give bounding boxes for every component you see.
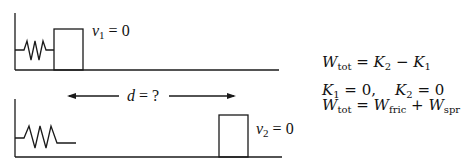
eq-symbol: W bbox=[428, 96, 443, 114]
eq-subscript: fric bbox=[389, 104, 406, 115]
eq-symbol: W bbox=[322, 96, 337, 114]
equation-work-total: Wtot = K2 − K1 bbox=[322, 55, 431, 70]
bottom-spring-icon bbox=[15, 126, 76, 148]
arrowhead-left-icon bbox=[67, 93, 76, 99]
eq-symbol: W bbox=[374, 96, 389, 114]
eq-subscript: tot bbox=[337, 104, 351, 115]
eq-subscript: spr bbox=[444, 104, 460, 115]
eq-operator: = bbox=[351, 96, 373, 114]
velocity-value: = 0 bbox=[269, 120, 294, 137]
top-block bbox=[54, 29, 83, 70]
eq-symbol: K bbox=[395, 81, 406, 99]
arrowhead-right-icon bbox=[227, 93, 236, 99]
distance-value: = ? bbox=[135, 87, 159, 104]
velocity-value: = 0 bbox=[105, 22, 130, 39]
eq-operator: = bbox=[351, 53, 373, 71]
eq-symbol: K bbox=[413, 53, 424, 71]
eq-subscript: tot bbox=[337, 61, 351, 72]
eq-symbol: K bbox=[374, 53, 385, 71]
bottom-block bbox=[219, 115, 248, 157]
eq-subscript: 1 bbox=[425, 61, 431, 72]
eq-symbol: W bbox=[322, 53, 337, 71]
equation-work-components: Wtot = Wfric + Wspr bbox=[322, 98, 460, 113]
top-spring-icon bbox=[15, 41, 54, 60]
top-velocity-label: v1 = 0 bbox=[92, 23, 130, 39]
distance-label: d = ? bbox=[127, 88, 159, 104]
eq-operator: − bbox=[391, 53, 413, 71]
bottom-velocity-label: v2 = 0 bbox=[256, 121, 294, 137]
work-energy-diagram: v1 = 0 d = ? v2 = 0 Wtot = K2 − K1 K1 = … bbox=[0, 0, 468, 164]
eq-operator: + bbox=[406, 96, 428, 114]
distance-symbol: d bbox=[127, 87, 135, 104]
